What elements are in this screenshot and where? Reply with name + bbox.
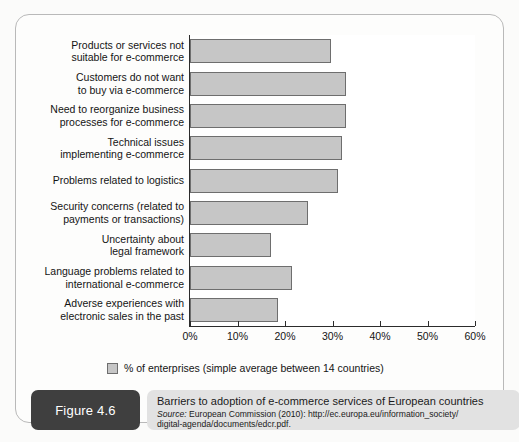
source-line-1: European Commission (2010): http://ec.eu… — [187, 409, 459, 419]
x-axis-tick-label: 60% — [464, 330, 485, 342]
x-axis-tick — [333, 321, 334, 326]
figure-caption-title: Barriers to adoption of e-commerce servi… — [157, 395, 510, 408]
bar-row: Products or services not suitable for e-… — [190, 39, 475, 63]
bar-row: Customers do not want to buy via e-comme… — [190, 72, 475, 96]
x-axis-tick — [285, 321, 286, 326]
bar-row: Language problems related to internation… — [190, 266, 475, 290]
plot-area: Products or services not suitable for e-… — [189, 35, 475, 327]
bar — [190, 201, 308, 225]
figure-caption-body: Barriers to adoption of e-commerce servi… — [147, 390, 519, 430]
figure-caption-strip: Figure 4.6 Barriers to adoption of e-com… — [31, 390, 519, 430]
bar-category-label: Technical issues implementing e-commerce — [14, 136, 184, 161]
bar-row: Technical issues implementing e-commerce — [190, 136, 475, 160]
figure-frame: Products or services not suitable for e-… — [15, 14, 504, 423]
x-axis-tick-label: 20% — [274, 330, 295, 342]
bar — [190, 72, 346, 96]
bar-row: Problems related to logistics — [190, 169, 475, 193]
bar-category-label: Problems related to logistics — [14, 174, 184, 187]
bar-category-label: Uncertainty about legal framework — [14, 233, 184, 258]
source-line-2: digital-agenda/documents/edcr.pdf. — [157, 419, 291, 429]
x-axis-tick-label: 50% — [417, 330, 438, 342]
figure-number-tag: Figure 4.6 — [31, 390, 140, 430]
x-axis-tick-label: 10% — [227, 330, 248, 342]
bar-row: Need to reorganize business processes fo… — [190, 104, 475, 128]
bar-row: Adverse experiences with electronic sale… — [190, 298, 475, 322]
bar-category-label: Need to reorganize business processes fo… — [14, 103, 184, 128]
legend-swatch-icon — [107, 363, 118, 374]
bar-category-label: Language problems related to internation… — [14, 265, 184, 290]
bar — [190, 39, 331, 63]
x-axis-tick — [190, 321, 191, 326]
bar — [190, 266, 292, 290]
x-axis-tick-label: 0% — [182, 330, 197, 342]
bar-category-label: Adverse experiences with electronic sale… — [14, 297, 184, 322]
figure-source: Source: European Commission (2010): http… — [157, 409, 510, 430]
bar-chart: Products or services not suitable for e-… — [16, 15, 505, 345]
bar — [190, 298, 278, 322]
bar — [190, 233, 271, 257]
chart-legend: % of enterprises (simple average between… — [107, 362, 384, 374]
x-axis-tick-label: 30% — [322, 330, 343, 342]
source-word: Source: — [157, 409, 187, 419]
bar-category-label: Security concerns (related to payments o… — [14, 200, 184, 225]
x-axis-tick — [380, 321, 381, 326]
bar — [190, 169, 338, 193]
x-axis-tick — [238, 321, 239, 326]
x-axis-tick-label: 40% — [369, 330, 390, 342]
bar-category-label: Products or services not suitable for e-… — [14, 39, 184, 64]
bar-row: Security concerns (related to payments o… — [190, 201, 475, 225]
bar — [190, 104, 346, 128]
x-axis-tick — [475, 321, 476, 326]
x-axis-tick — [428, 321, 429, 326]
bar-category-label: Customers do not want to buy via e-comme… — [14, 71, 184, 96]
bar — [190, 136, 342, 160]
bar-row: Uncertainty about legal framework — [190, 233, 475, 257]
legend-label: % of enterprises (simple average between… — [124, 362, 384, 374]
